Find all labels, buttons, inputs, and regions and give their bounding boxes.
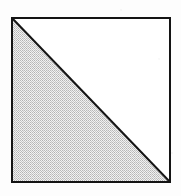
- figure-canvas: Square with shaded lower-left triangle A…: [0, 0, 181, 196]
- square-diagonal-figure: [0, 0, 181, 196]
